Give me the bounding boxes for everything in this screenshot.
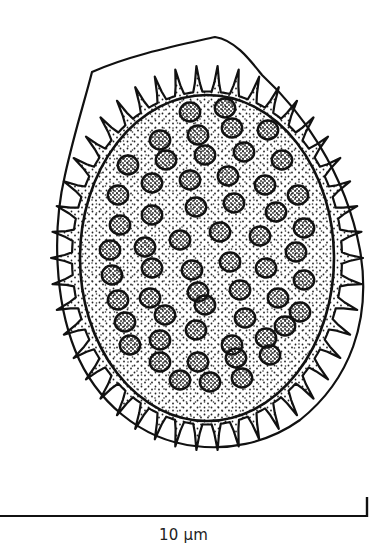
granule <box>286 243 306 262</box>
granule <box>170 371 190 390</box>
granule <box>220 253 240 272</box>
granule <box>234 143 254 162</box>
granule <box>232 369 252 388</box>
granule <box>200 373 220 392</box>
granule <box>210 223 230 242</box>
granule <box>235 309 255 328</box>
granule <box>115 313 135 332</box>
granule <box>150 131 170 150</box>
granule <box>272 151 292 170</box>
granule <box>260 346 280 365</box>
scale-bar-label: 10 µm <box>0 526 367 544</box>
granule <box>180 171 200 190</box>
granule <box>118 156 138 175</box>
granule <box>294 271 314 290</box>
granule <box>188 126 208 145</box>
granule <box>268 289 288 308</box>
granule <box>288 186 308 205</box>
granule <box>224 194 244 213</box>
granule <box>258 121 278 140</box>
granule <box>140 289 160 308</box>
granule <box>150 353 170 372</box>
granule <box>195 296 215 315</box>
granule <box>186 198 206 217</box>
granule <box>255 176 275 195</box>
granule <box>110 216 130 235</box>
granule <box>182 261 202 280</box>
granule <box>150 331 170 350</box>
granule <box>230 281 250 300</box>
granule <box>142 174 162 193</box>
granule <box>256 259 276 278</box>
granule <box>188 353 208 372</box>
granule <box>142 259 162 278</box>
granule <box>294 219 314 238</box>
granule <box>256 329 276 348</box>
granule <box>186 321 206 340</box>
granule <box>108 186 128 205</box>
granule <box>102 266 122 285</box>
cyst-figure <box>0 0 389 557</box>
granule <box>100 241 120 260</box>
granule <box>222 119 242 138</box>
granule <box>195 146 215 165</box>
granule <box>142 206 162 225</box>
granule <box>155 306 175 325</box>
granule <box>135 238 155 257</box>
granule <box>120 336 140 355</box>
scale-bar <box>0 497 367 517</box>
granule <box>108 291 128 310</box>
granule <box>170 231 190 250</box>
granule <box>266 203 286 222</box>
granule <box>275 317 295 336</box>
granule <box>180 103 200 122</box>
granule <box>218 167 238 186</box>
granule <box>250 227 270 246</box>
granule <box>226 349 246 368</box>
granule <box>156 151 176 170</box>
granule <box>215 99 235 118</box>
